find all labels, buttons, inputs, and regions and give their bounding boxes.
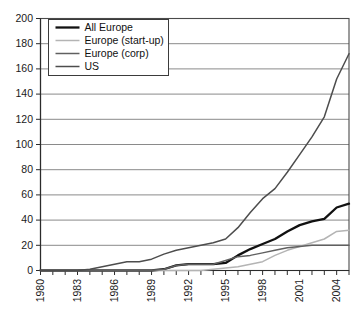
x-tick-label: 1983 [71, 279, 83, 303]
x-tick-label: 1998 [256, 279, 268, 303]
x-tick-label: 1980 [34, 279, 46, 303]
y-tick-label: 180 [15, 37, 33, 49]
y-axis-tick-labels: 020406080100120140160180200 [15, 12, 33, 276]
y-tick-label: 120 [15, 113, 33, 125]
legend-label-0: All Europe [85, 21, 134, 33]
y-tick-label: 80 [21, 163, 33, 175]
y-tick-label: 200 [15, 12, 33, 24]
series-line-3 [41, 54, 350, 271]
x-tick-label: 1986 [108, 279, 120, 303]
y-tick-label: 100 [15, 138, 33, 150]
x-tick-label: 1989 [145, 279, 157, 303]
x-tick-label: 1995 [219, 279, 231, 303]
y-tick-label: 140 [15, 87, 33, 99]
chart-canvas: 020406080100120140160180200 198019831986… [0, 0, 363, 321]
y-tick-label: 40 [21, 213, 33, 225]
y-tick-label: 0 [27, 264, 33, 276]
data-series [41, 54, 350, 271]
y-axis-ticks [36, 19, 41, 271]
chart-legend: All EuropeEurope (start-up)Europe (corp)… [49, 20, 169, 76]
y-tick-label: 160 [15, 62, 33, 74]
y-tick-label: 60 [21, 188, 33, 200]
x-axis-tick-labels: 198019831986198919921995199820012004 [34, 279, 342, 303]
series-line-2 [41, 245, 350, 270]
x-tick-label: 2004 [330, 279, 342, 303]
legend-label-1: Europe (start-up) [85, 34, 164, 46]
legend-label-2: Europe (corp) [85, 47, 149, 59]
line-chart: 020406080100120140160180200 198019831986… [0, 0, 363, 321]
y-tick-label: 20 [21, 239, 33, 251]
x-tick-label: 2001 [293, 279, 305, 303]
legend-label-3: US [85, 60, 100, 72]
x-tick-label: 1992 [182, 279, 194, 303]
series-line-0 [41, 204, 350, 271]
